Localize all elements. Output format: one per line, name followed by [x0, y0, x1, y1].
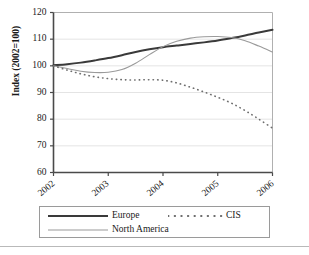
footer-divider: [0, 246, 309, 247]
legend-swatch-europe: [48, 211, 108, 221]
series-line-north-america: [54, 36, 273, 72]
gridlines: [54, 39, 273, 146]
series-line-europe: [54, 30, 273, 65]
y-tick-label: 70: [21, 141, 47, 151]
legend-label-cis: CIS: [226, 209, 241, 221]
legend-label-europe: Europe: [112, 209, 139, 221]
legend-swatch-north-america: [48, 225, 108, 235]
y-tick-label: 110: [21, 34, 47, 44]
y-tick-label: 90: [21, 88, 47, 98]
y-tick-label: 60: [21, 168, 47, 178]
data-series-group: [54, 30, 273, 128]
legend-swatch-cis: [168, 211, 224, 221]
y-tick-label: 80: [21, 114, 47, 124]
y-axis-title: Index (2002=100): [11, 1, 21, 121]
chart-legend: Europe CIS North America: [39, 206, 270, 238]
legend-label-north-america: North America: [112, 223, 169, 235]
y-tick-label: 120: [21, 8, 47, 18]
y-tick-label: 100: [21, 61, 47, 71]
chart-figure: Index (2002=100) 60708090100110120 20022…: [0, 0, 309, 255]
